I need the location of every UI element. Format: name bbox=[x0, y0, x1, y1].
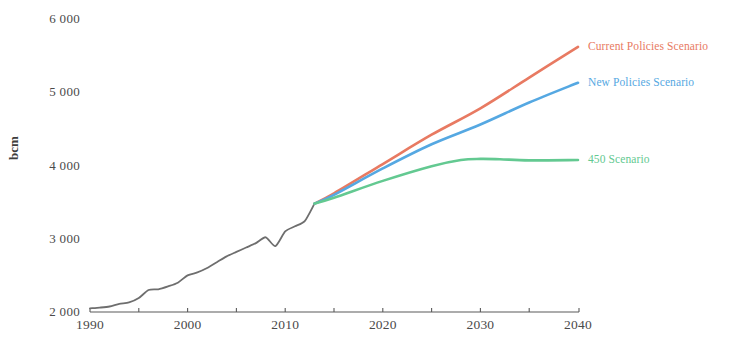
chart-container: bcm 2 0003 0004 0005 0006 000 1990200020… bbox=[0, 0, 743, 340]
series-label-current-policies-scenario: Current Policies Scenario bbox=[588, 40, 708, 52]
x-axis-tick-label: 2020 bbox=[353, 317, 413, 333]
series-label-450-scenario: 450 Scenario bbox=[588, 153, 650, 165]
y-axis-tick-label: 3 000 bbox=[28, 231, 80, 247]
x-axis-tick-label: 2030 bbox=[450, 317, 510, 333]
axes-group bbox=[90, 308, 579, 312]
y-axis-tick-label: 5 000 bbox=[28, 84, 80, 100]
x-axis-tick-label: 2010 bbox=[255, 317, 315, 333]
series-line-current-policies-scenario bbox=[314, 47, 578, 204]
y-axis-tick-label: 6 000 bbox=[28, 11, 80, 27]
series-group bbox=[90, 47, 578, 309]
series-label-new-policies-scenario: New Policies Scenario bbox=[588, 76, 694, 88]
y-axis-tick-label: 4 000 bbox=[28, 158, 80, 174]
series-line-historical bbox=[90, 204, 314, 309]
x-axis-tick-label: 1990 bbox=[60, 317, 120, 333]
x-axis-tick-label: 2040 bbox=[548, 317, 608, 333]
series-line-new-policies-scenario bbox=[314, 83, 578, 204]
x-axis-tick-label: 2000 bbox=[158, 317, 218, 333]
